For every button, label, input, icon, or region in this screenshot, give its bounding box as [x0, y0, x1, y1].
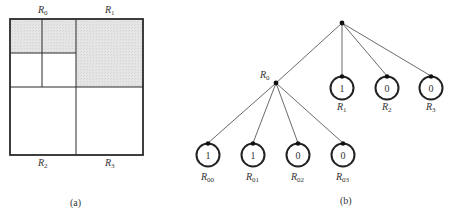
edge-root-r0 [276, 23, 342, 83]
leaf-value-r03: 0 [341, 150, 346, 161]
quadtree-figure: R0 R1 R2 R3 (a) R0 1 R1 0 [0, 0, 451, 218]
leaf-value-r3: 0 [429, 83, 434, 94]
leaf-r02: 0 R02 [287, 141, 310, 184]
region-label-r2: R2 [37, 157, 48, 170]
leaf-value-r2: 0 [385, 83, 390, 94]
leaf-label-r00: R00 [200, 171, 215, 184]
edge-root-r2 [342, 23, 387, 76]
leaf-value-r00: 1 [206, 150, 211, 161]
leaf-value-r01: 1 [251, 150, 256, 161]
shaded-region-r01 [42, 19, 76, 53]
caption-a: (a) [70, 197, 81, 209]
leaf-r2: 0 R2 [376, 74, 399, 114]
node-label-r0: R0 [259, 69, 270, 82]
leaf-value-r1: 1 [340, 83, 345, 94]
edge-r0-r00 [208, 83, 276, 143]
edge-root-r3 [342, 23, 431, 76]
shaded-region-r00 [10, 19, 42, 53]
caption-b: (b) [340, 195, 352, 207]
shaded-region-r1 [76, 19, 143, 87]
leaf-r00: 1 R00 [197, 141, 220, 184]
internal-node-r0 [274, 81, 279, 86]
edge-r0-r01 [253, 83, 276, 143]
leaf-label-r03: R03 [335, 171, 350, 184]
leaf-r1: 1 R1 [331, 74, 354, 114]
panel-b-quadtree: R0 1 R1 0 R2 0 R3 1 R00 [197, 21, 443, 207]
root-node [340, 21, 345, 26]
edge-r0-r02 [276, 83, 298, 143]
leaf-value-r02: 0 [296, 150, 301, 161]
leaf-label-r3: R3 [425, 101, 436, 114]
leaf-r03: 0 R03 [332, 141, 355, 184]
region-label-r3: R3 [104, 157, 115, 170]
leaf-label-r02: R02 [290, 171, 305, 184]
region-label-r0: R0 [37, 4, 48, 17]
leaf-label-r2: R2 [381, 101, 392, 114]
leaf-label-r1: R1 [336, 101, 347, 114]
panel-a-region-partition: R0 R1 R2 R3 (a) [10, 4, 143, 209]
region-label-r1: R1 [104, 4, 115, 17]
leaf-label-r01: R01 [245, 171, 260, 184]
leaf-r01: 1 R01 [242, 141, 265, 184]
leaf-r3: 0 R3 [420, 74, 443, 114]
